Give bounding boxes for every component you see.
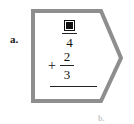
first-term-row: 4 bbox=[62, 16, 77, 50]
first-denominator: 4 bbox=[62, 35, 77, 50]
second-numerator: 2 bbox=[60, 49, 74, 64]
worksheet-problem-screenshot: a. 4 + 2 3 b. bbox=[0, 0, 134, 124]
second-term-row: + 2 3 bbox=[48, 49, 74, 82]
plus-operator: + bbox=[48, 59, 56, 73]
second-denominator: 3 bbox=[60, 67, 74, 82]
next-item-letter-label: b. bbox=[98, 114, 104, 123]
second-fraction-bar bbox=[60, 65, 74, 66]
first-fraction-bar bbox=[62, 33, 77, 34]
first-numerator-blank[interactable] bbox=[62, 16, 77, 32]
answer-rule[interactable] bbox=[50, 86, 97, 87]
fraction-expression: 4 + 2 3 bbox=[44, 16, 100, 96]
first-fraction: 4 bbox=[62, 16, 77, 50]
blank-box-icon[interactable] bbox=[64, 20, 75, 31]
second-fraction: 2 3 bbox=[60, 49, 74, 82]
